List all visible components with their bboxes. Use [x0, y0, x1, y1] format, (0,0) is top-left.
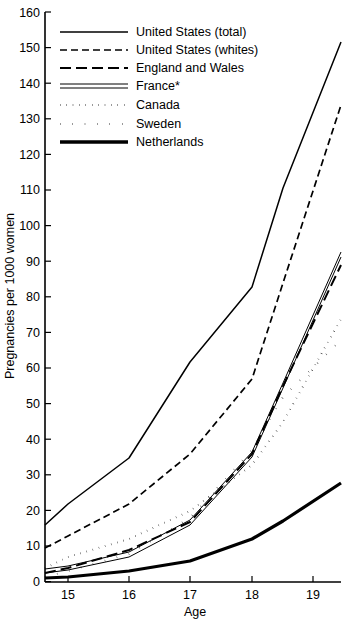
y-tick-label-160: 160 [19, 6, 40, 20]
legend-item-france[interactable]: France* [60, 79, 180, 93]
legend-label-united-states-whites: United States (whites) [136, 43, 258, 57]
legend-item-united-states-total[interactable]: United States (total) [60, 25, 246, 39]
legend-item-united-states-whites[interactable]: United States (whites) [60, 43, 258, 57]
y-tick-label-10: 10 [26, 539, 40, 553]
y-tick-label-30: 30 [26, 468, 40, 482]
series-line-netherlands [45, 483, 341, 578]
y-tick-label-0: 0 [33, 575, 40, 589]
legend-label-england-and-wales: England and Wales [136, 61, 244, 75]
legend-item-england-and-wales[interactable]: England and Wales [60, 61, 244, 75]
legend-item-netherlands[interactable]: Netherlands [60, 135, 203, 149]
y-tick-label-80: 80 [26, 290, 40, 304]
pregnancy-rate-line-chart: 160 150 140 130 120 110 100 90 80 70 60 … [0, 0, 346, 619]
x-tick-label-16: 16 [122, 588, 136, 602]
series-line-united-states-total [45, 42, 341, 525]
legend-item-sweden[interactable]: Sweden [60, 117, 181, 131]
y-tick-label-50: 50 [26, 397, 40, 411]
legend-label-sweden: Sweden [136, 117, 181, 131]
y-tick-marks [45, 12, 51, 582]
chart-container: 160 150 140 130 120 110 100 90 80 70 60 … [0, 0, 346, 619]
chart-legend: United States (total) United States (whi… [60, 25, 258, 149]
series-group [45, 42, 341, 578]
legend-label-united-states-total: United States (total) [136, 25, 246, 39]
y-tick-label-110: 110 [20, 183, 40, 197]
series-line-united-states-whites [45, 105, 341, 548]
x-tick-label-17: 17 [183, 588, 197, 602]
x-tick-marks [68, 576, 313, 582]
y-tick-label-70: 70 [26, 326, 40, 340]
x-axis-title: Age [184, 605, 206, 619]
y-tick-label-90: 90 [26, 255, 40, 269]
legend-label-france: France* [136, 79, 180, 93]
y-axis-title: Pregnancies per 1000 women [3, 213, 17, 379]
x-tick-label-15: 15 [61, 588, 75, 602]
x-tick-label-19: 19 [306, 588, 320, 602]
x-tick-label-18: 18 [245, 588, 259, 602]
legend-label-canada: Canada [136, 98, 180, 112]
series-line-sweden [45, 340, 341, 577]
y-tick-label-120: 120 [19, 148, 40, 162]
y-tick-label-100: 100 [19, 219, 40, 233]
legend-label-netherlands: Netherlands [136, 135, 203, 149]
y-tick-label-150: 150 [19, 41, 40, 55]
y-tick-label-20: 20 [26, 504, 40, 518]
y-tick-label-140: 140 [19, 77, 40, 91]
y-tick-label-60: 60 [26, 361, 40, 375]
y-tick-label-130: 130 [19, 112, 40, 126]
series-line-england-and-wales [45, 265, 341, 573]
legend-item-canada[interactable]: Canada [60, 98, 180, 112]
y-tick-label-40: 40 [26, 433, 40, 447]
